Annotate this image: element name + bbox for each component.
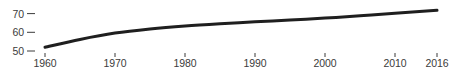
y-axis-tick-label: 60 (0, 26, 24, 38)
x-axis-tick-label: 2016 (426, 57, 449, 69)
x-axis-tick-label: 1980 (174, 57, 197, 69)
y-axis-tick-marks (27, 14, 35, 51)
y-axis-tick-label: 70 (0, 8, 24, 20)
x-axis-tick-label: 2000 (314, 57, 337, 69)
data-series-line (45, 10, 437, 47)
y-axis-tick-label: 50 (0, 45, 24, 57)
x-axis-tick-label: 2010 (384, 57, 407, 69)
x-axis-tick-label: 1990 (244, 57, 267, 69)
x-axis-tick-label: 1970 (104, 57, 127, 69)
line-chart: 506070 1960197019801990200020102016 (0, 0, 454, 76)
x-axis-tick-label: 1960 (34, 57, 57, 69)
